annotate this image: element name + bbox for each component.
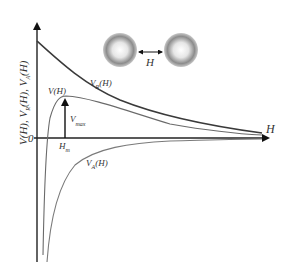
hm-label: Hm — [58, 141, 71, 153]
vr-label: VR(H) — [90, 78, 112, 90]
particles: H — [103, 33, 198, 68]
particle-right — [164, 33, 198, 67]
svg-text:V(H), VR(H), VA(H): V(H), VR(H), VA(H) — [17, 60, 31, 145]
y-axis-label: V(H), VR(H), VA(H) — [17, 60, 31, 145]
vmax-label: Vmax — [70, 114, 86, 127]
x-axis-label: H — [265, 122, 276, 136]
v-total-label: V(H) — [48, 86, 66, 96]
separation-label: H — [145, 56, 155, 68]
dlvo-diagram: H 0 H V(H), VR(H), VA(H) Vmax Hm VR(H) — [0, 0, 290, 269]
curve-v-total — [43, 96, 262, 255]
curves — [37, 41, 262, 262]
va-label: VA(H) — [86, 158, 108, 170]
particle-left — [103, 33, 137, 67]
curve-va — [47, 139, 262, 262]
